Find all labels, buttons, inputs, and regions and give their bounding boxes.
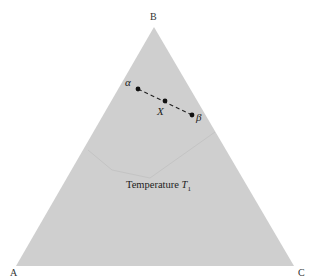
point-alpha — [136, 87, 141, 92]
point-label-alpha: α — [125, 76, 131, 88]
vertex-label-a: A — [10, 267, 18, 278]
title-text: Temperature — [126, 179, 182, 190]
ternary-diagram: B A C α X β Temperature T1 — [0, 0, 317, 278]
point-x — [163, 99, 168, 104]
ternary-triangle-region — [16, 27, 294, 266]
point-beta — [190, 113, 195, 118]
point-label-beta: β — [195, 111, 202, 123]
vertex-label-c: C — [298, 267, 305, 278]
title-subscript: 1 — [187, 185, 191, 193]
point-label-x: X — [156, 105, 165, 117]
vertex-label-b: B — [150, 11, 157, 22]
